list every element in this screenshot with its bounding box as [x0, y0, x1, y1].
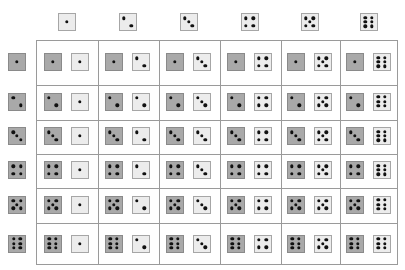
cell-die-row: [105, 53, 123, 71]
pip-icon: [109, 237, 112, 240]
pip-icon: [264, 199, 267, 202]
pip-icon: [364, 25, 367, 28]
pip-icon: [135, 96, 138, 99]
pip-icon: [196, 131, 199, 134]
pip-icon: [78, 134, 81, 137]
pip-icon: [18, 246, 21, 249]
grid-divider: [281, 41, 282, 264]
cell-die-column: [71, 53, 89, 71]
pip-icon: [317, 172, 320, 175]
pip-icon: [257, 245, 260, 248]
pip-icon: [54, 199, 57, 202]
pip-icon: [237, 103, 240, 106]
pip-icon: [54, 237, 57, 240]
pip-icon: [12, 96, 15, 99]
pip-icon: [234, 134, 237, 137]
pip-icon: [19, 138, 22, 141]
pip-icon: [291, 237, 294, 240]
pip-icon: [108, 172, 111, 175]
pip-icon: [15, 60, 18, 63]
pip-icon: [290, 131, 293, 134]
pip-icon: [115, 103, 118, 106]
pip-icon: [356, 199, 359, 202]
pip-icon: [54, 206, 57, 209]
pip-icon: [200, 134, 203, 137]
pip-icon: [196, 199, 199, 202]
pip-icon: [196, 165, 199, 168]
pip-icon: [264, 57, 267, 60]
cell-die-row: [287, 53, 305, 71]
pip-icon: [142, 64, 145, 67]
pip-icon: [317, 199, 320, 202]
pip-icon: [324, 199, 327, 202]
pip-icon: [297, 199, 300, 202]
grid-divider: [98, 41, 99, 264]
pip-icon: [257, 238, 260, 241]
pip-icon: [383, 207, 386, 210]
pip-icon: [230, 131, 233, 134]
pip-icon: [264, 245, 267, 248]
cell-die-column: [314, 196, 332, 214]
row-header-die: [8, 53, 26, 71]
cell-die-column: [314, 93, 332, 111]
pip-icon: [383, 134, 386, 137]
pip-icon: [383, 237, 386, 240]
pip-icon: [12, 172, 15, 175]
pip-icon: [12, 206, 15, 209]
cell-die-row: [346, 161, 364, 179]
pip-icon: [173, 60, 176, 63]
pip-icon: [115, 165, 118, 168]
pip-icon: [297, 242, 300, 245]
cell-die-row: [227, 127, 245, 145]
pip-icon: [297, 138, 300, 141]
cell-die-row: [44, 93, 62, 111]
pip-icon: [383, 203, 386, 206]
pip-icon: [349, 206, 352, 209]
pip-icon: [15, 203, 18, 206]
pip-icon: [304, 24, 307, 27]
pip-icon: [115, 172, 118, 175]
pip-icon: [324, 96, 327, 99]
pip-icon: [196, 96, 199, 99]
cell-die-column: [71, 161, 89, 179]
pip-icon: [108, 96, 111, 99]
pip-icon: [257, 199, 260, 202]
pip-icon: [78, 203, 81, 206]
cell-die-column: [193, 127, 211, 145]
pip-icon: [142, 103, 145, 106]
pip-icon: [383, 65, 386, 68]
pip-icon: [47, 206, 50, 209]
pip-icon: [290, 96, 293, 99]
pip-icon: [317, 131, 320, 134]
pip-icon: [297, 237, 300, 240]
pip-icon: [370, 25, 373, 28]
pip-icon: [230, 165, 233, 168]
pip-icon: [257, 57, 260, 60]
pip-icon: [356, 246, 359, 249]
pip-icon: [234, 203, 237, 206]
pip-icon: [383, 168, 386, 171]
pip-icon: [353, 60, 356, 63]
pip-icon: [317, 238, 320, 241]
pip-icon: [142, 206, 145, 209]
pip-icon: [370, 20, 373, 23]
pip-icon: [317, 138, 320, 141]
column-header-die: [301, 13, 319, 31]
cell-die-row: [227, 161, 245, 179]
cell-die-column: [193, 93, 211, 111]
pip-icon: [311, 17, 314, 20]
pip-icon: [377, 104, 380, 107]
pip-icon: [169, 199, 172, 202]
pip-icon: [257, 103, 260, 106]
pip-icon: [54, 172, 57, 175]
pip-icon: [377, 100, 380, 103]
pip-icon: [135, 165, 138, 168]
pip-icon: [297, 103, 300, 106]
cell-die-column: [132, 235, 150, 253]
cell-die-row: [105, 235, 123, 253]
pip-icon: [317, 206, 320, 209]
pip-icon: [383, 130, 386, 133]
pip-icon: [203, 64, 206, 67]
pip-icon: [109, 246, 112, 249]
pip-icon: [377, 65, 380, 68]
